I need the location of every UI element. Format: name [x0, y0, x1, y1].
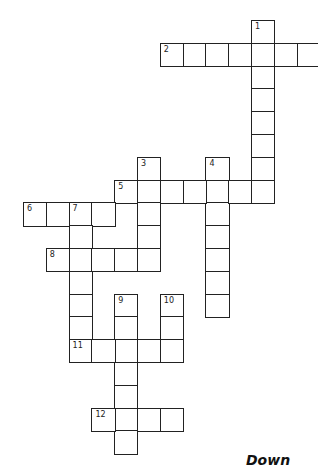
crossword-cell[interactable]: [251, 157, 275, 181]
clue-number: 11: [73, 341, 83, 350]
clue-number: 1: [255, 22, 260, 31]
crossword-cell[interactable]: 4: [205, 157, 229, 181]
crossword-grid: 123456711891012: [0, 0, 318, 469]
crossword-cell[interactable]: [91, 202, 115, 226]
crossword-cell[interactable]: [205, 248, 229, 272]
crossword-cell[interactable]: [228, 180, 252, 204]
clue-number: 5: [118, 182, 123, 191]
crossword-cell[interactable]: 6: [23, 202, 47, 226]
crossword-cell[interactable]: [205, 202, 229, 226]
crossword-cell[interactable]: 2: [160, 43, 184, 67]
crossword-cell[interactable]: [114, 248, 138, 272]
crossword-cell[interactable]: [91, 339, 115, 363]
crossword-cell[interactable]: 12: [91, 408, 115, 432]
crossword-cell[interactable]: [205, 43, 229, 67]
crossword-cell[interactable]: [69, 294, 93, 318]
crossword-cell[interactable]: [205, 271, 229, 295]
crossword-cell[interactable]: [69, 271, 93, 295]
crossword-cell[interactable]: 1: [251, 20, 275, 44]
crossword-cell[interactable]: [69, 316, 93, 340]
crossword-cell[interactable]: [114, 385, 138, 409]
crossword-cell[interactable]: [160, 408, 184, 432]
crossword-cell[interactable]: [114, 408, 138, 432]
crossword-cell[interactable]: [114, 430, 138, 454]
down-clues-heading: Down: [246, 452, 290, 468]
crossword-cell[interactable]: 8: [46, 248, 70, 272]
crossword-cell[interactable]: [160, 180, 184, 204]
crossword-cell[interactable]: 5: [114, 180, 138, 204]
crossword-cell[interactable]: [160, 316, 184, 340]
crossword-cell[interactable]: [46, 202, 70, 226]
crossword-cell[interactable]: [183, 180, 207, 204]
crossword-cell[interactable]: [251, 111, 275, 135]
clue-number: 8: [50, 250, 55, 259]
crossword-cell[interactable]: [274, 43, 298, 67]
crossword-cell[interactable]: [160, 339, 184, 363]
crossword-cell[interactable]: [137, 248, 161, 272]
crossword-cell[interactable]: 9: [114, 294, 138, 318]
crossword-cell[interactable]: [205, 294, 229, 318]
crossword-cell[interactable]: [251, 180, 275, 204]
crossword-cell[interactable]: [205, 180, 229, 204]
crossword-cell[interactable]: [114, 316, 138, 340]
crossword-cell[interactable]: 7: [69, 202, 93, 226]
clue-number: 6: [27, 204, 32, 213]
crossword-cell[interactable]: 10: [160, 294, 184, 318]
crossword-cell[interactable]: 11: [69, 339, 93, 363]
clue-number: 9: [118, 296, 123, 305]
crossword-cell[interactable]: [205, 225, 229, 249]
crossword-cell[interactable]: [251, 134, 275, 158]
crossword-cell[interactable]: [91, 248, 115, 272]
crossword-cell[interactable]: [183, 43, 207, 67]
crossword-cell[interactable]: [137, 408, 161, 432]
crossword-cell[interactable]: [228, 43, 252, 67]
crossword-cell[interactable]: [137, 225, 161, 249]
clue-number: 7: [73, 204, 78, 213]
crossword-cell[interactable]: 3: [137, 157, 161, 181]
crossword-cell[interactable]: [251, 43, 275, 67]
crossword-cell[interactable]: [137, 202, 161, 226]
crossword-cell[interactable]: [137, 339, 161, 363]
clue-number: 4: [209, 159, 214, 168]
clue-number: 12: [95, 410, 105, 419]
clue-number: 2: [164, 45, 169, 54]
crossword-cell[interactable]: [114, 339, 138, 363]
crossword-cell[interactable]: [251, 66, 275, 90]
clue-number: 3: [141, 159, 146, 168]
crossword-cell[interactable]: [69, 225, 93, 249]
clue-number: 10: [164, 296, 174, 305]
crossword-cell[interactable]: [137, 180, 161, 204]
crossword-cell[interactable]: [297, 43, 318, 67]
crossword-cell[interactable]: [69, 248, 93, 272]
crossword-cell[interactable]: [251, 88, 275, 112]
crossword-cell[interactable]: [114, 362, 138, 386]
